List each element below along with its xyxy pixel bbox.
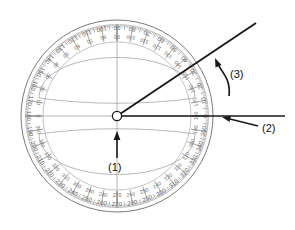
callout-2-label: (2) bbox=[262, 122, 275, 134]
callout-3-arrowhead bbox=[215, 58, 222, 68]
callout-3-label: (3) bbox=[230, 68, 243, 80]
protractor-svg: 0102030405060708090100110120130140150160… bbox=[0, 0, 295, 230]
scale-label-inner: 80 bbox=[100, 34, 107, 41]
center-pivot bbox=[112, 111, 121, 120]
scale-label-inner: 10 bbox=[35, 99, 42, 106]
callout-1-label: (1) bbox=[108, 161, 121, 173]
callout-3-shaft bbox=[218, 63, 230, 96]
protractor-figure: 0102030405060708090100110120130140150160… bbox=[0, 0, 295, 230]
callout-2-shaft bbox=[228, 119, 258, 127]
